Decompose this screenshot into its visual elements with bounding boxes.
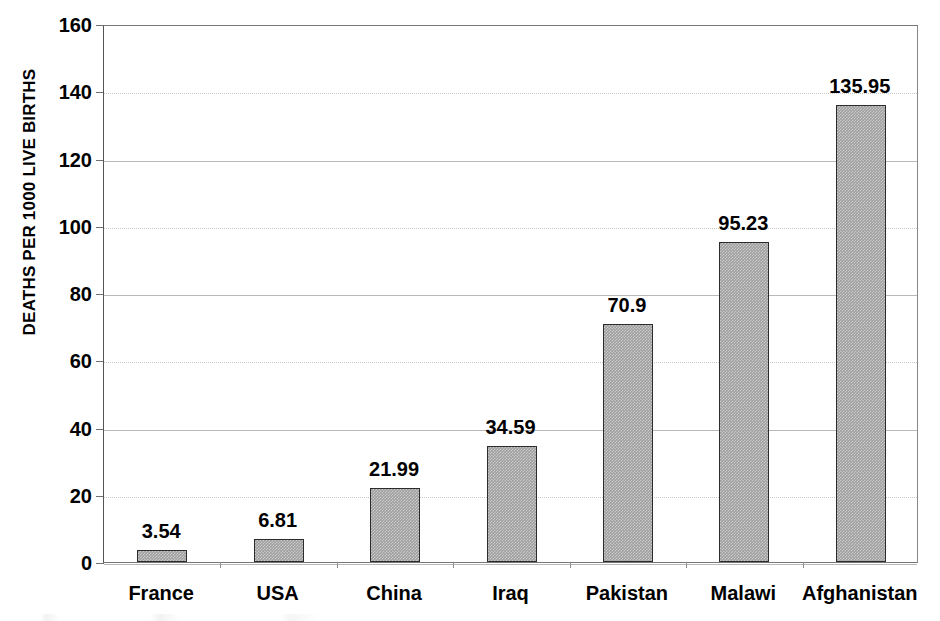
bar-value-label: 95.23 [683, 213, 803, 233]
y-tick-label: 80 [36, 284, 92, 304]
bar [370, 488, 420, 562]
bar [137, 550, 187, 562]
bar [254, 539, 304, 562]
gridline [104, 93, 917, 94]
bar [719, 242, 769, 562]
y-tick-label: 40 [36, 419, 92, 439]
x-category-label: Afghanistan [790, 583, 930, 603]
y-tick-label: 20 [36, 486, 92, 506]
y-tick-label: 160 [36, 15, 92, 35]
bar-value-label: 70.9 [567, 295, 687, 315]
bar-chart: DEATHS PER 1000 LIVE BIRTHS 160140120100… [0, 0, 940, 621]
category-tick [803, 562, 804, 568]
plot-area [103, 25, 918, 563]
y-tick-mark [96, 563, 104, 564]
gridline [104, 295, 917, 296]
bar-value-label: 21.99 [334, 459, 454, 479]
bar [487, 446, 537, 562]
y-tick-label: 60 [36, 351, 92, 371]
gridline [104, 362, 917, 363]
gridline [104, 564, 917, 565]
category-tick [686, 562, 687, 568]
bar-value-label: 6.81 [218, 510, 338, 530]
y-tick-label: 100 [36, 217, 92, 237]
scan-artifact [0, 614, 940, 621]
category-tick [453, 562, 454, 568]
bar-value-label: 135.95 [800, 76, 920, 96]
bar [603, 324, 653, 562]
y-tick-label: 120 [36, 150, 92, 170]
category-tick [220, 562, 221, 568]
bar [836, 105, 886, 562]
y-tick-label: 0 [36, 553, 92, 573]
category-tick [337, 562, 338, 568]
y-tick-label: 140 [36, 82, 92, 102]
gridline [104, 161, 917, 162]
bar-value-label: 3.54 [101, 521, 221, 541]
bar-value-label: 34.59 [451, 417, 571, 437]
category-tick [570, 562, 571, 568]
